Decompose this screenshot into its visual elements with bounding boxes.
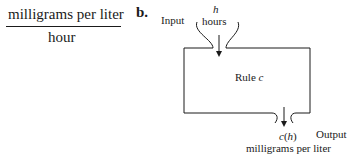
rule-name: c: [259, 71, 264, 83]
output-expression: c(h): [279, 130, 297, 142]
rule-label: Rule c: [235, 71, 263, 83]
output-fn: c: [279, 130, 284, 142]
input-variable: h: [213, 3, 219, 15]
input-label: Input: [161, 14, 184, 26]
rule-word: Rule: [235, 71, 256, 83]
input-units: hours: [202, 15, 226, 27]
output-arg: h: [288, 130, 294, 142]
output-units: milligrams per liter: [246, 142, 331, 154]
output-label: Output: [316, 128, 347, 140]
